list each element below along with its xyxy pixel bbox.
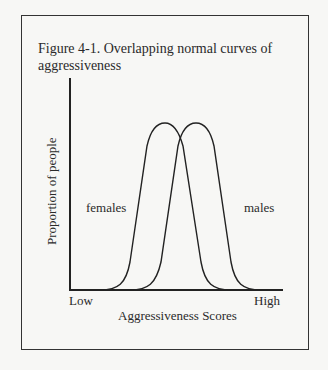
males-curve	[130, 123, 261, 290]
x-tick-low: Low	[69, 293, 93, 309]
males-label: males	[244, 200, 274, 216]
x-tick-high: High	[254, 293, 280, 309]
x-axis-label: Aggressiveness Scores	[118, 308, 237, 324]
y-axis-label: Proportion of people	[44, 137, 60, 245]
females-label: females	[86, 200, 126, 216]
